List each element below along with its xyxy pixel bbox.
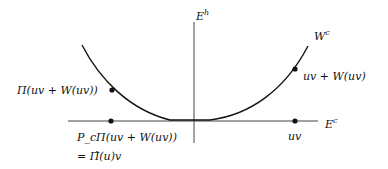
left-axis-point-label-line1: P_cΠ(uv + W(uv)) (76, 131, 177, 144)
left-curve-point-label: Π(uv + W(uv)) (16, 84, 98, 97)
left-axis-point (108, 118, 113, 123)
left-axis-point-label-line2: = Π̂(u)v (77, 150, 122, 163)
curve-label: Wc (314, 28, 330, 43)
center-manifold-diagram: Eh Ec Wc Π(uv + W(uv)) P_cΠ(uv + W(uv)) … (0, 0, 388, 169)
manifold-curve-wc (82, 45, 308, 120)
right-curve-point-label: uv + W(uv) (303, 70, 366, 83)
right-axis-point-label: uv (288, 130, 302, 143)
horizontal-axis-label: Ec (324, 116, 338, 131)
right-axis-point (292, 118, 297, 123)
left-curve-point (109, 87, 114, 92)
right-curve-point (292, 66, 297, 71)
vertical-axis-label: Eh (195, 8, 209, 23)
